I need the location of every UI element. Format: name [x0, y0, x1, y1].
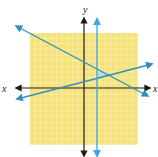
x-axis-label: x [1, 83, 7, 94]
coordinate-plane: y x x [0, 0, 158, 157]
x-axis-right-label: x [152, 83, 158, 94]
y-axis-label: y [82, 4, 88, 15]
